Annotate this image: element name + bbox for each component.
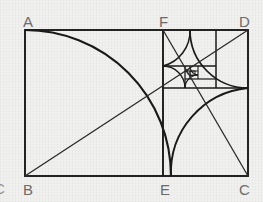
diagonal-B-D [25,30,248,176]
vertex-label-f: F [159,14,168,29]
spiral-arc-2 [171,88,248,176]
clipped-edge-label: C [0,181,5,196]
vertex-label-b: B [23,182,33,197]
spiral-arc-5 [163,66,185,88]
spiral-arc-4 [163,30,190,66]
vertex-label-a: A [23,14,33,29]
vertex-label-c: C [239,182,250,197]
golden-ratio-diagram [0,0,263,202]
figure-canvas: A F D B E C C [0,0,263,202]
vertex-label-e: E [160,182,170,197]
diagonal-F-C [163,30,248,176]
spiral-arc-1 [25,30,171,176]
vertex-label-d: D [239,14,250,29]
